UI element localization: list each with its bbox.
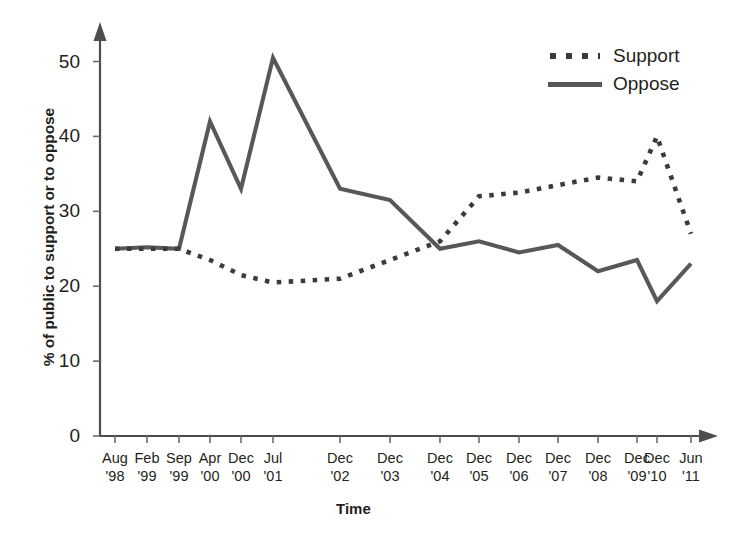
legend-swatch-oppose-icon <box>548 77 602 91</box>
legend-label-support: Support <box>613 45 680 67</box>
chart-legend: Support Oppose <box>548 42 680 98</box>
legend-item-support[interactable]: Support <box>548 42 680 70</box>
legend-item-oppose[interactable]: Oppose <box>548 70 680 98</box>
chart-container: 50403020100 Aug'98Feb'99Sep'99Apr'00Dec'… <box>0 0 752 540</box>
x-axis-arrow-icon <box>699 430 718 443</box>
x-axis-title: Time <box>336 500 371 517</box>
x-tick-label-month: Jul <box>248 450 298 468</box>
y-axis-arrow-icon <box>94 22 107 41</box>
y-tick-label: 50 <box>40 52 80 71</box>
x-tick-label-year: '03 <box>365 468 415 486</box>
legend-label-oppose: Oppose <box>613 73 680 95</box>
y-tick-label: 0 <box>40 426 80 445</box>
x-tick-label-month: Jun <box>666 450 716 468</box>
legend-swatch-support-icon <box>548 49 602 63</box>
x-tick-label-month: Dec <box>365 450 415 468</box>
x-tick-label-month: Dec <box>315 450 365 468</box>
x-tick-label: Dec'03 <box>365 450 415 485</box>
x-tick-label-year: '01 <box>248 468 298 486</box>
x-tick-label: Jul'01 <box>248 450 298 485</box>
y-axis-title: % of public to support or to oppose <box>40 72 58 402</box>
x-tick-label-year: '02 <box>315 468 365 486</box>
x-tick-label-year: '11 <box>666 468 716 486</box>
x-tick-label: Dec'02 <box>315 450 365 485</box>
x-tick-label: Jun'11 <box>666 450 716 485</box>
